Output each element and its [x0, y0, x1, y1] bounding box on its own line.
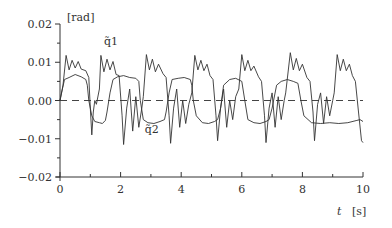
series-q1-line — [60, 53, 363, 145]
y-axis-unit-label: [rad] — [67, 11, 94, 24]
series-q1-label: q̃1 — [104, 35, 118, 48]
y-tick-label: 0.01 — [28, 56, 53, 69]
x-tick-label: 10 — [356, 183, 370, 196]
x-tick-label: 4 — [178, 183, 185, 196]
x-tick-label: 2 — [117, 183, 124, 196]
x-tick-label: 0 — [57, 183, 64, 196]
y-tick-label: 0.02 — [28, 18, 53, 31]
y-axis: −0.02−0.010.000.010.02 — [18, 18, 60, 184]
x-tick-label: 6 — [238, 183, 245, 196]
y-tick-label: −0.02 — [18, 171, 52, 184]
x-axis-label: t — [337, 205, 342, 218]
series-q2-label: q̃2 — [145, 123, 159, 136]
x-tick-label: 8 — [299, 183, 306, 196]
x-axis: 0246810 — [56, 172, 370, 196]
series-q2-line — [60, 75, 363, 124]
x-axis-unit-label: [s] — [352, 205, 366, 218]
y-tick-label: 0.00 — [28, 95, 53, 108]
line-chart: −0.02−0.010.000.010.02 0246810 [rad] t [… — [0, 0, 392, 228]
y-tick-label: −0.01 — [18, 133, 52, 146]
